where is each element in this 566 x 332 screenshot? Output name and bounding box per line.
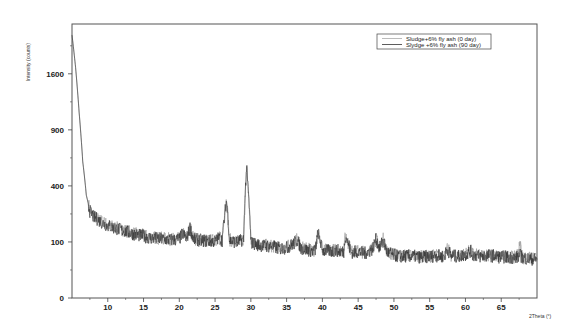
legend: Sludge+6% fly ash (0 day) Slydge +6% fly…	[377, 34, 491, 49]
xrd-chart: 01004009001600 101520253035404550556065 …	[0, 0, 566, 332]
y-tick-label: 1600	[46, 70, 64, 79]
x-tick-label: 25	[211, 303, 220, 312]
legend-label-90-day: Slydge +6% fly ash (90 day)	[406, 42, 481, 48]
x-tick-label: 10	[103, 303, 112, 312]
x-tick-label: 55	[425, 303, 434, 312]
x-tick-label: 35	[282, 303, 291, 312]
x-tick-label: 15	[139, 303, 148, 312]
x-tick-label: 20	[175, 303, 184, 312]
x-axis-label: 2Theta (°)	[529, 313, 552, 319]
x-tick-label: 50	[389, 303, 398, 312]
x-tick-label: 60	[461, 303, 470, 312]
y-tick-label: 0	[60, 294, 65, 303]
y-axis-label: Intensity (counts)	[25, 43, 31, 81]
x-tick-label: 40	[318, 303, 327, 312]
y-tick-label: 100	[51, 238, 65, 247]
x-tick-label: 65	[497, 303, 506, 312]
y-tick-label: 400	[51, 182, 65, 191]
x-tick-label: 30	[246, 303, 255, 312]
x-tick-label: 45	[354, 303, 363, 312]
y-tick-label: 900	[51, 126, 65, 135]
